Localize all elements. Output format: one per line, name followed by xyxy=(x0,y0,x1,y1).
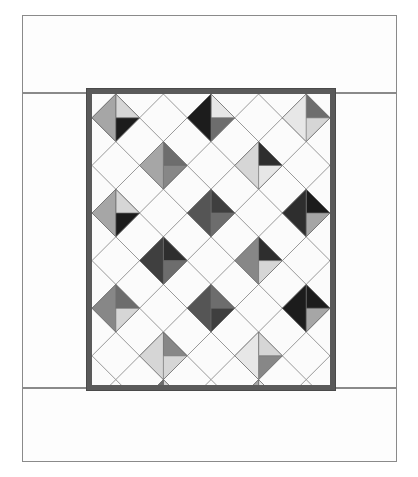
quilt-patch-right-r7-c2 xyxy=(163,380,187,385)
quilt-center-svg xyxy=(92,94,330,385)
quilt-patch-left-r5-c1 xyxy=(92,284,116,332)
quilt-patch-left-r4-c2 xyxy=(140,237,164,285)
border-strip-0 xyxy=(22,15,397,93)
border-strip-3 xyxy=(22,388,397,462)
quilt-plain-diamond-r1-c4 xyxy=(235,94,283,142)
quilt-patch-left-r3-c1 xyxy=(92,189,116,237)
quilt-plain-diamond-r6-c3 xyxy=(187,332,235,380)
quilt-plain-diamond-r6-c1 xyxy=(92,332,140,380)
quilt-plain-diamond-r2-c3 xyxy=(187,142,235,190)
quilt-patch-left-r5-c3 xyxy=(187,284,211,332)
quilt-plain-diamond-r4-c5 xyxy=(282,237,330,285)
quilt-plain-diamond-r2-c1 xyxy=(92,142,140,190)
quilt-patch-left-r5-c5 xyxy=(282,284,306,332)
quilt-plain-diamond-r4-c1 xyxy=(92,237,140,285)
quilt-plain-diamond-r3-c4 xyxy=(235,189,283,237)
quilt-plain-diamond-r7-c3 xyxy=(187,380,235,385)
quilt-patch-left-r7-c4 xyxy=(235,380,259,385)
quilt-plain-diamond-r1-c2 xyxy=(140,94,188,142)
quilt-center xyxy=(92,94,330,385)
quilt-plain-diamond-r3-c2 xyxy=(140,189,188,237)
quilt-patch-left-r1-c5 xyxy=(282,94,306,142)
border-strip-1 xyxy=(22,93,92,388)
quilt-patch-left-r1-c1 xyxy=(92,94,116,142)
border-strip-2 xyxy=(330,93,397,388)
quilt-plain-diamond-r4-c3 xyxy=(187,237,235,285)
quilt-patch-left-r6-c4 xyxy=(235,332,259,380)
quilt-patch-left-r3-c3 xyxy=(187,189,211,237)
quilt-plain-diamond-r2-c5 xyxy=(282,142,330,190)
quilt-patch-left-r7-c2 xyxy=(140,380,164,385)
quilt-diagram-page xyxy=(0,0,418,477)
quilt-patch-left-r2-c4 xyxy=(235,142,259,190)
quilt-plain-diamond-r5-c4 xyxy=(235,284,283,332)
quilt-patch-left-r6-c2 xyxy=(140,332,164,380)
quilt-patch-left-r2-c2 xyxy=(140,142,164,190)
quilt-patch-right-r7-c4 xyxy=(259,380,283,385)
quilt-plain-diamond-r7-c5 xyxy=(282,380,330,385)
quilt-patch-left-r3-c5 xyxy=(282,189,306,237)
quilt-plain-diamond-r7-c1 xyxy=(92,380,140,385)
quilt-patch-left-r1-c3 xyxy=(187,94,211,142)
quilt-plain-diamond-r5-c2 xyxy=(140,284,188,332)
quilt-plain-diamond-r6-c5 xyxy=(282,332,330,380)
quilt-patch-left-r4-c4 xyxy=(235,237,259,285)
